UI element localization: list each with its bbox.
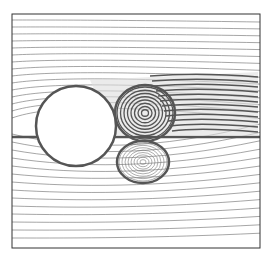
lower-vortex-ring <box>125 148 161 177</box>
lower-vortex-ring <box>131 153 155 172</box>
streamline <box>12 27 260 29</box>
streamline <box>12 174 260 185</box>
streamline <box>12 66 260 70</box>
streamline <box>12 233 260 238</box>
streamline <box>12 54 260 57</box>
streamline <box>12 216 260 222</box>
streamline <box>12 34 260 36</box>
lower-vortex-ring <box>137 157 149 167</box>
lower-vortex-ring <box>119 143 167 181</box>
cylinder <box>36 86 116 166</box>
streamline <box>12 200 260 208</box>
streamline <box>12 225 260 230</box>
streamline <box>12 60 260 63</box>
streamline <box>12 166 260 178</box>
streamline <box>12 41 260 43</box>
streamline-figure <box>0 0 274 263</box>
streamline <box>12 20 260 22</box>
streamline <box>12 191 260 200</box>
streamline <box>12 208 260 215</box>
streamline <box>12 47 260 49</box>
